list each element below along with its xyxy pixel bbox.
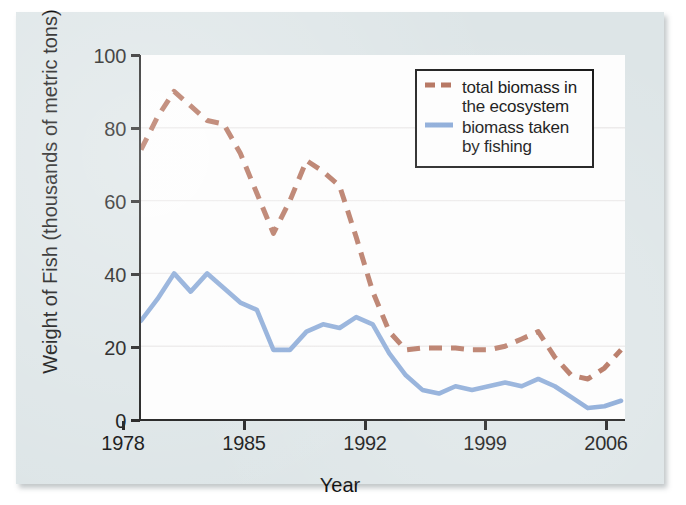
legend-label-biomass-taken-line1: biomass taken [462,118,569,137]
y-tick-label-60: 60 [74,191,126,214]
y-tick-label-20: 20 [74,337,126,360]
x-tick-mark-1992 [364,421,367,430]
x-tick-mark-1978 [122,421,125,430]
x-tick-mark-1999 [484,421,487,430]
series-biomass-taken-line [141,273,621,408]
x-tick-mark-2006 [605,421,608,430]
legend: total biomass inthe ecosystem biomass ta… [415,69,594,168]
y-tick-label-100: 100 [74,45,126,68]
y-tick-label-80: 80 [74,118,126,141]
x-tick-label-1978: 1978 [83,432,163,455]
legend-entry-biomass-taken: biomass takenby fishing [425,118,584,156]
legend-label-biomass-taken-line2: by fishing [462,137,532,156]
y-tick-label-40: 40 [74,264,126,287]
x-axis-title: Year [16,474,664,497]
x-tick-label-2006: 2006 [566,432,646,455]
solid-blue-line-swatch [425,121,453,137]
x-tick-label-1999: 1999 [445,432,525,455]
y-tick-label-0: 0 [74,410,126,433]
legend-label-total-biomass: total biomass inthe ecosystem [462,78,577,116]
legend-label-total-biomass-line2: the ecosystem [462,97,569,116]
figure-root: Weight of Fish (thousands of metric tons… [0,0,686,505]
x-tick-label-1992: 1992 [325,432,405,455]
chart-card: Weight of Fish (thousands of metric tons… [16,12,664,484]
legend-entry-total-biomass: total biomass inthe ecosystem [425,78,584,116]
dashed-brown-line-swatch [425,81,453,97]
legend-label-biomass-taken: biomass takenby fishing [462,118,569,156]
legend-label-total-biomass-line1: total biomass in [462,78,577,97]
y-axis-title: Weight of Fish (thousands of metric tons… [39,0,62,392]
x-tick-mark-1985 [243,421,246,430]
x-tick-label-1985: 1985 [204,432,284,455]
